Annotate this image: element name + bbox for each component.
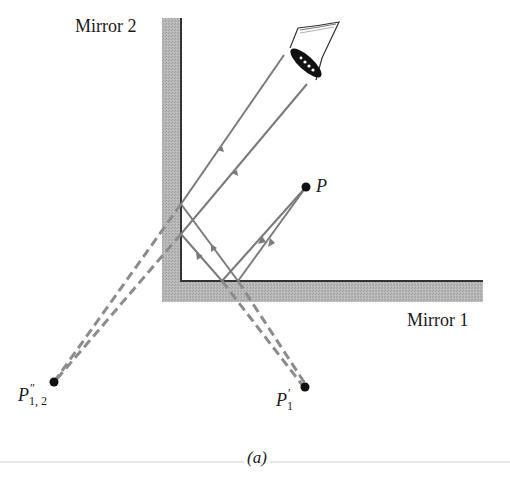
image-point-1-base: P <box>276 390 287 410</box>
virtual-rays-double-image <box>54 204 181 382</box>
image-point-1-subscript: 1 <box>287 399 293 414</box>
mirror-2-label: Mirror 2 <box>75 16 137 37</box>
ray-arrows-3 <box>217 146 238 176</box>
image-point-12-base: P <box>18 385 29 405</box>
two-mirror-reflection-diagram: Mirror 2 Mirror 1 P P′1 P″1, 2 (a) <box>0 0 510 483</box>
mirror-1-label: Mirror 1 <box>407 310 469 331</box>
image-point-12-label: P″1, 2 <box>18 385 53 406</box>
diagram-canvas <box>0 0 510 483</box>
image-point-12-subscript: 1, 2 <box>29 394 47 409</box>
mirror-1-body <box>162 281 483 302</box>
ray-arrows-2 <box>196 244 217 260</box>
object-point-dot <box>302 183 311 192</box>
rays-mirror-1-to-mirror-2 <box>181 204 238 281</box>
rays-object-to-mirror-1 <box>222 187 306 281</box>
object-point-label: P <box>316 176 327 197</box>
image-point-1-label: P′1 <box>276 390 311 411</box>
mirror-surfaces <box>181 18 483 281</box>
mirror-2-body <box>162 18 181 302</box>
eye-icon <box>286 22 339 82</box>
figure-caption: (a) <box>244 448 270 468</box>
